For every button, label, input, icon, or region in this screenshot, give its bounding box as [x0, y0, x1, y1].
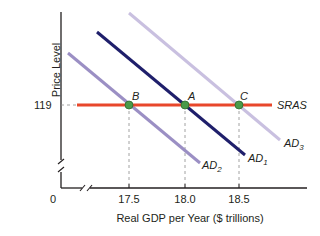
- point-c-label: C: [240, 90, 248, 102]
- point-b-marker: [125, 101, 133, 109]
- x-tick-17-5: 17.5: [118, 193, 139, 205]
- guide-lines: [61, 105, 239, 186]
- x-tick-18-5: 18.5: [228, 193, 249, 205]
- x-axis: [61, 184, 307, 191]
- x-axis-break-icon: [80, 185, 92, 191]
- y-axis-break-icon: [58, 159, 64, 172]
- ad1-label: AD1: [247, 152, 268, 167]
- ad2-label: AD2: [201, 159, 222, 174]
- ad-sras-chart: B A C SRAS AD1 AD2 AD3 119 0 17.5 18.0 1…: [0, 0, 320, 236]
- x-tick-18-0: 18.0: [174, 193, 195, 205]
- y-tick-119: 119: [34, 99, 52, 111]
- point-b-label: B: [132, 90, 139, 102]
- point-a-marker: [181, 101, 189, 109]
- point-c-marker: [235, 101, 243, 109]
- y-axis: [58, 12, 64, 188]
- x-tick-0: 0: [50, 193, 56, 205]
- x-axis-title: Real GDP per Year ($ trillions): [116, 212, 263, 224]
- sras-label: SRAS: [277, 99, 308, 111]
- ad2-curve: [68, 53, 200, 163]
- point-a-label: A: [187, 90, 195, 102]
- ad3-label: AD3: [283, 137, 304, 152]
- y-axis-title: Price Level: [50, 43, 62, 97]
